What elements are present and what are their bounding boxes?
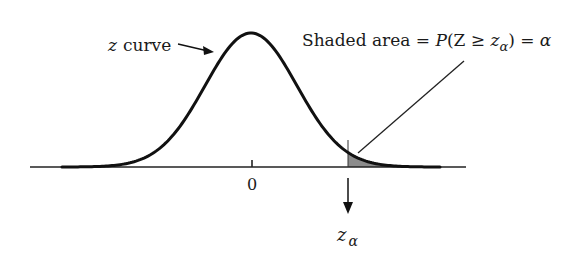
shaded-area-pointer — [358, 61, 464, 153]
shaded-area-label: Shaded area = P(Z ≥ zα) = α — [302, 30, 552, 54]
critical-value-label: zα — [336, 224, 358, 249]
curve-label: zcurve — [107, 35, 171, 55]
down-arrowhead-icon — [343, 202, 353, 214]
z-curve — [62, 33, 440, 167]
arrowhead-icon — [203, 46, 214, 55]
zero-label: 0 — [247, 175, 257, 194]
normal-curve-diagram: zcurve Shaded area = P(Z ≥ zα) = α 0 zα — [0, 0, 585, 261]
